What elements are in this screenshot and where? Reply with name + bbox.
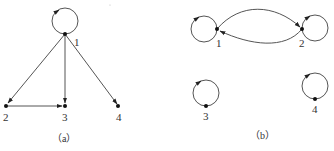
graph-a-self-loop-1: [52, 8, 78, 34]
graph-b: 1 2 3 4 （b）: [191, 9, 328, 141]
graph-b-node-1: [215, 27, 219, 31]
graph-a: 1 2 3 4 （a）: [3, 8, 122, 144]
graph-a-caption: （a）: [52, 133, 76, 144]
graph-a-node-3: [63, 104, 67, 108]
graph-b-node-4: [313, 97, 317, 101]
graph-a-node-4: [116, 104, 120, 108]
graph-b-edge-1-2: [217, 9, 300, 29]
graph-b-label-1: 1: [216, 37, 222, 49]
graph-b-node-2: [300, 27, 304, 31]
graph-a-label-4: 4: [116, 111, 122, 123]
graph-b-self-loop-4: [302, 73, 328, 99]
graph-b-self-loop-3: [193, 80, 219, 106]
graph-b-label-4: 4: [312, 103, 318, 115]
graph-a-label-1: 1: [74, 36, 80, 48]
graph-a-label-3: 3: [62, 111, 68, 123]
graph-a-node-2: [4, 104, 8, 108]
digraph-figure: 1 2 3 4 （a） 1 2 3 4 （b）: [0, 0, 334, 151]
graph-b-edge-2-1: [220, 29, 302, 43]
graph-a-node-1: [63, 32, 67, 36]
graph-b-node-3: [204, 104, 208, 108]
speck: [109, 4, 110, 5]
graph-b-self-loop-1: [191, 16, 217, 42]
graph-a-label-2: 2: [3, 111, 9, 123]
graph-a-edge-1-2: [8, 34, 65, 103]
graph-b-caption: （b）: [250, 130, 275, 141]
graph-a-edge-1-4: [65, 34, 117, 104]
graph-b-label-3: 3: [203, 110, 209, 122]
graph-b-self-loop-2: [302, 15, 328, 41]
graph-b-label-2: 2: [299, 37, 305, 49]
